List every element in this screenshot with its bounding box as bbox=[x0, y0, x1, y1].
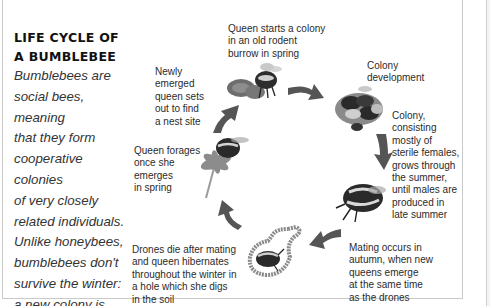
intro-line: cooperative colonies bbox=[14, 149, 132, 191]
intro-line: bumblebees don't bbox=[14, 253, 132, 274]
arrow-to-mating bbox=[307, 225, 343, 251]
bee-cluster-icon bbox=[331, 83, 387, 133]
stage-label-forage: Queen forages once she emerges in spring bbox=[134, 145, 200, 195]
title-line-1: LIFE CYCLE OF bbox=[14, 28, 132, 47]
intro-line: related individuals. bbox=[14, 212, 132, 233]
stage-label-colony-growth: Colony, consisting mostly of sterile fem… bbox=[392, 110, 459, 222]
queen-bee-nest-icon bbox=[225, 60, 285, 104]
arrow-to-nest bbox=[211, 103, 241, 135]
page-edge bbox=[486, 0, 490, 306]
intro-line: of very closely bbox=[14, 191, 132, 212]
male-bee-icon bbox=[333, 178, 389, 224]
intro-line: survive the winter: bbox=[14, 274, 132, 295]
arrow-to-forage bbox=[212, 200, 242, 234]
intro-line: Unlike honeybees, bbox=[14, 232, 132, 253]
stage-label-hibernation: Drones die after mating and queen hibern… bbox=[132, 244, 237, 306]
intro-line: that they form bbox=[14, 128, 132, 149]
stage-label-mating: Mating occurs in autumn, when new queens… bbox=[349, 242, 433, 304]
stage-label-colony-development: Colony development bbox=[367, 60, 424, 85]
intro-line: a new colony is bbox=[14, 295, 132, 306]
title-line-2: A BUMBLEBEE bbox=[14, 47, 132, 66]
hibernating-queen-icon bbox=[244, 223, 306, 279]
arrow-to-colony-development bbox=[286, 80, 326, 104]
stage-label-start-colony: Queen starts a colony in an old rodent b… bbox=[228, 23, 325, 60]
bee-on-flower-icon bbox=[196, 132, 250, 200]
intro-panel: LIFE CYCLE OF A BUMBLEBEE Bumblebees are… bbox=[14, 28, 132, 306]
arrow-to-colony-growth bbox=[372, 132, 394, 172]
stage-label-nest-search: Newly emerged queen sets out to find a n… bbox=[155, 66, 204, 128]
intro-line: Bumblebees are bbox=[14, 66, 132, 87]
intro-line: social bees, meaning bbox=[14, 87, 132, 129]
intro-text: Bumblebees are social bees, meaning that… bbox=[14, 66, 132, 306]
